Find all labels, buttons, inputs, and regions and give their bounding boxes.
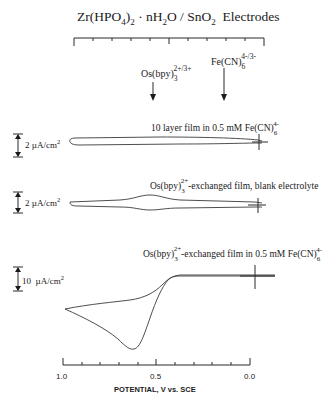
scale-bar-10uA: 10 µA/cm2 (13, 267, 64, 291)
x-tick-0.5: 0.5 (150, 372, 162, 381)
svg-text:10 µA/cm2: 10 µA/cm2 (22, 274, 64, 286)
panel-3-label: Os(bpy)32+-exchanged film in 0.5 mM Fe(C… (143, 245, 323, 263)
svg-text:2 µA/cm2: 2 µA/cm2 (25, 196, 60, 208)
panel-2-label: Os(bpy)32+-exchanged film, blank electro… (150, 177, 318, 195)
svg-text:2 µA/cm2: 2 µA/cm2 (25, 138, 60, 150)
os-bpy-marker: Os(bpy)32+/3+ (141, 64, 192, 101)
arrow-down-icon (150, 94, 156, 101)
top-potential-axis (74, 38, 264, 46)
panel-1-fecn-film: 10 layer film in 0.5 mM Fe(CN)64- 2 µA/c… (13, 120, 280, 157)
x-tick-1.0: 1.0 (56, 372, 68, 381)
figure-title: Zr(HPO4)2 · nH2O / SnO2 Electrodes (77, 9, 280, 27)
scale-bar-2uA: 2 µA/cm2 (13, 134, 60, 157)
fe-cn-marker: Fe(CN)64-/3- (211, 52, 256, 101)
os-bpy-marker-label: Os(bpy)32+/3+ (141, 64, 192, 83)
panel-1-label: 10 layer film in 0.5 mM Fe(CN)64- (151, 120, 280, 137)
scale-bar-2uA: 2 µA/cm2 (13, 192, 60, 213)
x-tick-0.0: 0.0 (244, 372, 256, 381)
fe-cn-marker-label: Fe(CN)64-/3- (211, 52, 256, 71)
arrow-down-icon (221, 94, 227, 101)
cyclic-voltammogram-figure: Zr(HPO4)2 · nH2O / SnO2 Electrodes Os(bp… (0, 0, 335, 402)
bottom-potential-axis: 1.0 0.5 0.0 POTENTIAL, V vs. SCE (56, 358, 256, 394)
panel-2-os-blank: Os(bpy)32+-exchanged film, blank electro… (13, 177, 318, 213)
x-axis-label: POTENTIAL, V vs. SCE (114, 385, 196, 394)
panel-3-os-fecn: Os(bpy)32+-exchanged film in 0.5 mM Fe(C… (13, 245, 323, 349)
